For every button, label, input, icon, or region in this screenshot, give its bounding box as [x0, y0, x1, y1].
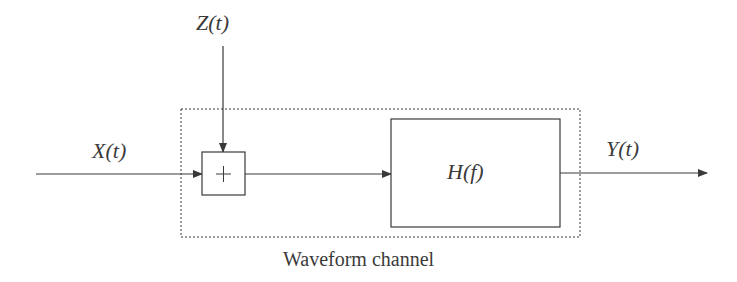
input-label: X(t) — [92, 138, 126, 164]
output-label: Y(t) — [606, 136, 639, 162]
channel-caption: Waveform channel — [283, 248, 434, 271]
noise-label: Z(t) — [196, 10, 229, 36]
filter-label: H(f) — [447, 159, 484, 185]
